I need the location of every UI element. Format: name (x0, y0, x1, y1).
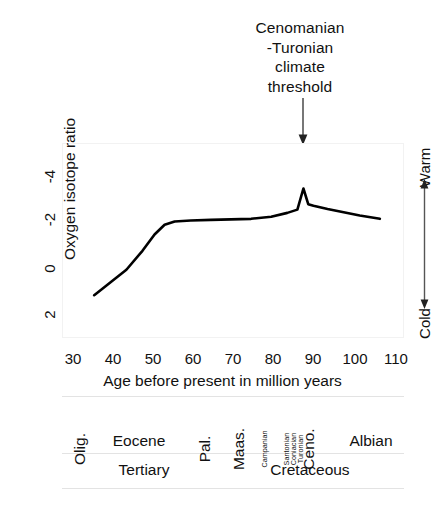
x-tick-label: 100 (338, 350, 372, 367)
oxygen-isotope-chart: Cenomanian -Turonian climate threshold -… (0, 0, 445, 512)
annotation-arrow-icon (296, 98, 310, 146)
x-tick-label: 90 (296, 350, 330, 367)
y-tick-label: -2 (41, 207, 58, 233)
x-tick-label: 110 (379, 350, 413, 367)
y-tick-label: -4 (41, 164, 58, 190)
stage-row: Olig. Eocene Pal. Maas. Campanian Santon… (62, 397, 404, 453)
stage-albian: Albian (334, 432, 408, 449)
period-row: Tertiary Cretaceous (62, 454, 404, 488)
stage-eocene: Eocene (96, 432, 182, 449)
y-tick-label: 2 (41, 302, 58, 328)
annotation-title: Cenomanian -Turonian climate threshold (200, 18, 400, 96)
x-tick-label: 80 (256, 350, 290, 367)
plot-curve (62, 143, 404, 338)
strat-divider-bottom (62, 488, 404, 489)
x-tick-label: 60 (176, 350, 210, 367)
y-axis-title: Oxygen isotope ratio (61, 99, 79, 279)
x-tick-label: 70 (216, 350, 250, 367)
cold-label: Cold (416, 300, 433, 348)
temperature-scale: Warm Cold (404, 143, 445, 343)
x-tick-label: 40 (96, 350, 130, 367)
period-tertiary: Tertiary (84, 461, 204, 479)
x-axis-title: Age before present in million years (0, 372, 445, 390)
x-tick-label: 50 (136, 350, 170, 367)
x-axis-ticks: 30 40 50 60 70 80 90 100 110 (0, 350, 445, 370)
stratigraphic-column: Olig. Eocene Pal. Maas. Campanian Santon… (62, 396, 404, 500)
x-tick-label: 30 (56, 350, 90, 367)
y-tick-label: 0 (41, 256, 58, 282)
period-cretaceous: Cretaceous (240, 461, 380, 479)
double-arrow-icon (418, 179, 431, 309)
